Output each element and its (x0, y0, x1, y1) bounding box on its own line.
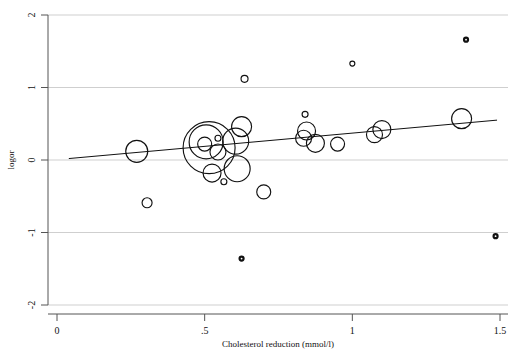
x-axis-tick-label: 1.5 (494, 325, 507, 336)
x-axis-tick-label: 1 (350, 325, 355, 336)
y-axis-tick-label: -2 (26, 301, 37, 309)
y-axis-title: logor (6, 150, 16, 169)
scatter-plot: 210-1-2 0.511.5 Cholesterol reduction (m… (0, 0, 517, 359)
y-axis-tick-label: 0 (26, 158, 37, 163)
y-axis-tick-label: 2 (26, 13, 37, 18)
x-axis-title: Cholesterol reduction (mmol/l) (222, 339, 334, 349)
y-axis-tick-label: 1 (26, 85, 37, 90)
x-axis-tick-label: .5 (201, 325, 209, 336)
y-axis-tick-label: -1 (26, 228, 37, 236)
chart-container: 210-1-2 0.511.5 Cholesterol reduction (m… (0, 0, 517, 359)
x-axis-tick-label: 0 (55, 325, 60, 336)
